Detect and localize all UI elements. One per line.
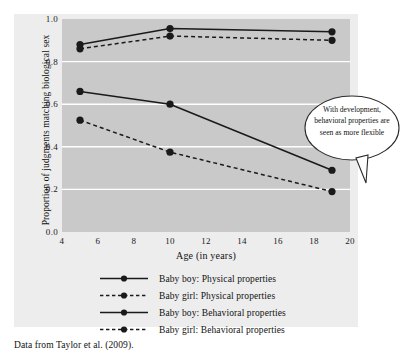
legend-label: Baby girl: Physical properties: [150, 291, 275, 301]
series-line: [80, 91, 332, 170]
x-tick-label: 16: [266, 236, 290, 246]
data-point-marker: [328, 37, 335, 44]
series-line: [80, 120, 332, 191]
series-solid: [76, 88, 335, 174]
data-point-marker: [166, 149, 173, 156]
data-point-marker: [76, 45, 83, 52]
source-caption: Data from Taylor et al. (2009).: [14, 340, 134, 350]
legend-swatch-dashed: [98, 323, 150, 336]
data-point-marker: [166, 101, 173, 108]
chart-legend: Baby boy: Physical properties Baby girl:…: [98, 270, 338, 338]
legend-label: Baby girl: Behavioral properties: [150, 325, 285, 335]
legend-swatch-solid: [98, 272, 150, 285]
annotation-callout: With development, behavioral properties …: [304, 95, 400, 161]
legend-label: Baby boy: Physical properties: [150, 274, 276, 284]
data-point-marker: [166, 32, 173, 39]
legend-label: Baby boy: Behavioral properties: [150, 308, 286, 318]
series-dashed: [76, 32, 335, 52]
data-point-marker: [328, 28, 335, 35]
x-tick-label: 4: [50, 236, 74, 246]
x-tick-label: 6: [86, 236, 110, 246]
x-tick-label: 18: [302, 236, 326, 246]
x-tick-label: 10: [158, 236, 182, 246]
figure-panel: 1.0 0.8 0.6 0.4 0.2 0.0 Proportion of ju…: [14, 14, 358, 327]
data-point-marker: [328, 188, 335, 195]
x-axis-label: Age (in years): [62, 250, 350, 261]
legend-item: Baby girl: Physical properties: [98, 287, 338, 304]
legend-swatch-dashed: [98, 289, 150, 302]
legend-item: Baby girl: Behavioral properties: [98, 321, 338, 338]
data-point-marker: [76, 117, 83, 124]
y-tick-label: 1.0: [24, 14, 58, 24]
y-axis-label: Proportion of judgments matching biologi…: [41, 30, 51, 230]
data-point-marker: [76, 88, 83, 95]
x-tick-label: 12: [194, 236, 218, 246]
callout-tail: [356, 155, 368, 183]
data-point-marker: [328, 167, 335, 174]
x-tick-label: 20: [338, 236, 362, 246]
x-tick-label: 8: [122, 236, 146, 246]
legend-item: Baby boy: Physical properties: [98, 270, 338, 287]
legend-swatch-solid: [98, 306, 150, 319]
legend-item: Baby boy: Behavioral properties: [98, 304, 338, 321]
series-layer: [76, 25, 335, 195]
data-point-marker: [166, 25, 173, 32]
annotation-text: With development, behavioral properties …: [312, 104, 392, 138]
plot-area: With development, behavioral properties …: [62, 19, 350, 232]
x-tick-label: 14: [230, 236, 254, 246]
